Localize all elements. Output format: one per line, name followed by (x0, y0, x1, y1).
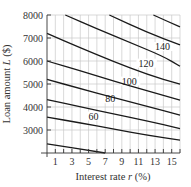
curve-label-60: 60 (89, 111, 99, 122)
loan-amount-contour-chart: 6080100120140 13579111315300040005000600… (0, 0, 191, 187)
x-axis-title: Interest rate r (%) (76, 171, 151, 183)
x-tick-label: 3 (69, 156, 74, 167)
x-tick-label: 5 (86, 156, 91, 167)
level-curve-180 (109, 15, 180, 45)
y-tick-label: 3000 (23, 125, 43, 136)
y-tick-label: 4000 (23, 102, 43, 113)
level-curve-200 (153, 15, 180, 27)
y-tick-label: 8000 (23, 10, 43, 21)
y-tick-label: 5000 (23, 79, 43, 90)
curve-label-80: 80 (105, 93, 115, 104)
y-tick-label: 7000 (23, 33, 43, 44)
y-tick-label: 6000 (23, 56, 43, 67)
x-tick-label: 15 (167, 156, 177, 167)
curve-label-140: 140 (155, 41, 170, 52)
y-axis-title: Loan amount L ($) (1, 44, 13, 124)
x-tick-label: 11 (134, 156, 144, 167)
x-tick-label: 13 (150, 156, 160, 167)
x-tick-label: 1 (53, 156, 58, 167)
x-tick-label: 9 (119, 156, 124, 167)
curve-label-120: 120 (138, 58, 153, 69)
curve-label-100: 100 (122, 76, 137, 87)
tick-labels: 13579111315300040005000600070008000 (23, 10, 177, 168)
x-tick-label: 7 (103, 156, 108, 167)
